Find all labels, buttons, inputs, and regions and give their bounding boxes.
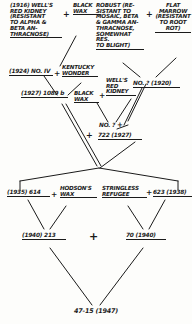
edge-623-to-70 <box>149 200 165 229</box>
edge-213-to-4715 <box>50 248 92 305</box>
edge-722-to-614 <box>100 142 135 168</box>
node-47-15-1947: 47-15 (1947) <box>62 308 130 315</box>
cross-symbol-8: + <box>146 189 152 197</box>
cross-symbol-2: + <box>146 11 153 19</box>
edge-flat-marrow-to-no-q-1920 <box>156 58 176 77</box>
cross-symbol-4: + <box>99 92 105 100</box>
node-no-q-mid: NO. ? <box>99 123 117 129</box>
node-robust: ROBUST (RE- SISTANT TO MOSAIC, BETA & GA… <box>96 3 144 50</box>
cross-symbol-9: + <box>89 231 98 242</box>
cross-symbol-3: + <box>54 70 60 78</box>
node-flat-marrow: FLAT MARROW (RESISTANT TO ROOT ROT) <box>155 3 191 33</box>
edge-bar-right <box>99 168 178 181</box>
node-kentucky-wonder: KENTUCKY WONDER <box>62 65 98 77</box>
edge-hodsons-wax-to-213 <box>50 206 66 229</box>
node-no-q-1920: NO. ? (1920) <box>133 81 180 88</box>
pedigree-chart: (1916) WELL'S RED KIDNEY (RESISTANT TO A… <box>0 0 192 324</box>
node-213-1940: (1940) 213 <box>22 233 66 240</box>
node-623-1938: 623 (1938) <box>153 190 192 197</box>
node-hodsons-wax: HODSON'S WAX <box>60 186 97 198</box>
cross-symbol-6: + <box>86 132 93 140</box>
node-stringless-refugee: STRINGLESS REFUGEE <box>102 186 147 198</box>
edge-bar-left <box>20 168 99 181</box>
edge-1089b-to-614-b <box>66 104 101 166</box>
edge-robust-to-no-q-1920 <box>123 63 140 77</box>
node-1089b-1927: (1927) 1089 b <box>21 91 68 98</box>
node-black-wax-mid: BLACK WAX <box>74 91 99 103</box>
cross-symbol-7: + <box>51 191 57 199</box>
node-wells-red-kidney-mid: WELL'S RED KIDNEY <box>106 78 136 96</box>
edge-black-wax-mid-to-no-q <box>97 103 108 122</box>
node-70-1940: 70 (1940) <box>126 233 166 240</box>
edge-70-to-4715 <box>100 248 143 305</box>
edge-stringless-refugee-to-70 <box>128 206 143 229</box>
node-614-1935: (1935) 614 <box>7 190 50 197</box>
node-wells-red-kidney: (1916) WELL'S RED KIDNEY (RESISTANT TO A… <box>10 3 62 38</box>
cross-symbol-5: + <box>117 122 123 129</box>
node-722-1927: 722 (1927) <box>98 133 142 140</box>
edge-614-to-213 <box>28 200 44 229</box>
node-no-iv-1924: (1924) NO. IV <box>9 69 53 76</box>
edge-black-wax-top-to-no-iv <box>60 36 76 66</box>
cross-symbol-1: + <box>63 11 70 19</box>
